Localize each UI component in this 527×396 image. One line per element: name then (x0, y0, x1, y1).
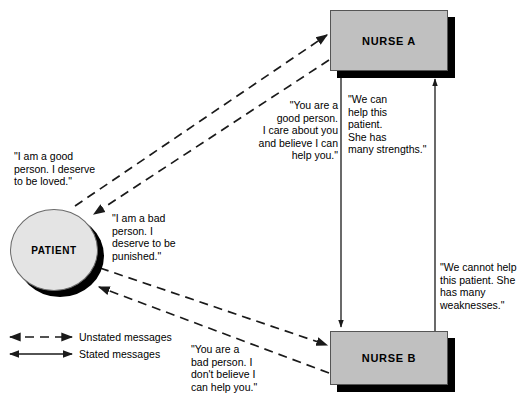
caption-patient-bad-self: "I am a bad person. I deserve to be puni… (112, 212, 222, 262)
nurse-b-label: NURSE B (362, 352, 416, 364)
patient-label: PATIENT (31, 245, 77, 256)
node-nurse-b[interactable]: NURSE B (330, 331, 448, 385)
legend-label-unstated: Unstated messages (79, 331, 172, 343)
caption-nurse-b-to-patient: "You are a bad person. I don't believe I… (191, 343, 301, 393)
diagram-canvas: NURSE A NURSE B PATIENT "I am a good per… (0, 0, 527, 396)
caption-patient-good-self: "I am a good person. I deserve to be lov… (14, 150, 134, 188)
nurse-a-label: NURSE A (362, 35, 416, 47)
caption-nurse-a-to-patient: "You are a good person. I care about you… (220, 99, 338, 162)
legend-label-stated: Stated messages (79, 348, 160, 360)
node-patient[interactable]: PATIENT (10, 209, 98, 291)
caption-nurse-a-stated: "We can help this patient. She has many … (348, 93, 448, 156)
caption-nurse-b-stated: "We cannot help this patient. She has ma… (440, 261, 527, 311)
node-nurse-a[interactable]: NURSE A (330, 10, 448, 71)
